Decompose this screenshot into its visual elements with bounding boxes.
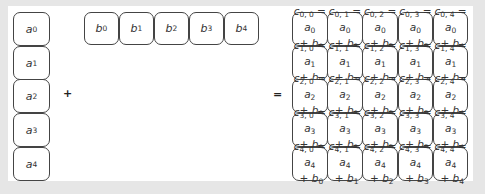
cell-b-index: 1 bbox=[354, 177, 359, 186]
cell-equals: = bbox=[384, 39, 396, 51]
cell-index: 4, 3 bbox=[405, 145, 419, 154]
cell-index: 0, 2 bbox=[370, 10, 384, 19]
cell-lhs: c1, 1 = bbox=[329, 39, 361, 55]
cell-equals: = bbox=[314, 72, 326, 84]
element-symbol: b bbox=[201, 22, 208, 35]
cell-a-index: 0 bbox=[451, 26, 456, 35]
cell-equals: = bbox=[419, 39, 431, 51]
cell-index: 3, 1 bbox=[335, 111, 349, 120]
cell-lhs: c0, 2 = bbox=[364, 5, 396, 21]
cell-index: 1, 1 bbox=[335, 44, 349, 53]
cell-rhs: a4 + b2 bbox=[363, 156, 397, 188]
element-symbol: b bbox=[166, 22, 173, 35]
cell-rhs: a4 + b1 bbox=[328, 156, 362, 188]
cell-index: 3, 0 bbox=[299, 111, 313, 120]
cell-index: 0, 0 bbox=[299, 10, 313, 19]
cell-equals: = bbox=[455, 5, 467, 17]
cell-rhs: a4 + b3 bbox=[399, 156, 433, 188]
cell-a-index: 2 bbox=[451, 93, 456, 102]
cell-equals: = bbox=[455, 72, 467, 84]
cell-b-index: 3 bbox=[424, 177, 429, 186]
element-symbol: b bbox=[96, 22, 103, 35]
cell-plus: + bbox=[437, 172, 452, 184]
element-symbol: b bbox=[131, 22, 138, 35]
cell-index: 0, 4 bbox=[440, 10, 454, 19]
cell-equals: = bbox=[349, 106, 361, 118]
cell-lhs: c1, 4 = bbox=[434, 39, 466, 55]
element-symbol: a bbox=[26, 90, 33, 103]
cell-a-index: 0 bbox=[346, 26, 351, 35]
cell-a-index: 3 bbox=[346, 127, 351, 136]
cell-equals: = bbox=[419, 140, 431, 152]
cell-equals: = bbox=[314, 5, 326, 17]
matrix-c-cell: c4, 4 =a4 + b4 bbox=[433, 147, 469, 181]
vector-a-element: a1 bbox=[13, 46, 50, 80]
cell-a-index: 2 bbox=[416, 93, 421, 102]
vector-b-element: b1 bbox=[119, 12, 154, 45]
cell-lhs: c4, 2 = bbox=[364, 140, 396, 156]
cell-b-symbol: b bbox=[347, 172, 354, 184]
cell-a-index: 4 bbox=[346, 161, 351, 170]
element-index: 2 bbox=[173, 24, 178, 33]
cell-a-index: 3 bbox=[311, 127, 316, 136]
cell-index: 3, 3 bbox=[405, 111, 419, 120]
cell-equals: = bbox=[455, 140, 467, 152]
equals-operator: = bbox=[273, 88, 282, 101]
cell-lhs: c3, 4 = bbox=[434, 106, 466, 122]
cell-plus: + bbox=[367, 172, 382, 184]
element-index: 1 bbox=[138, 24, 143, 33]
element-index: 4 bbox=[243, 24, 248, 33]
cell-b-index: 4 bbox=[459, 177, 464, 186]
cell-a-index: 4 bbox=[381, 161, 386, 170]
cell-index: 1, 3 bbox=[405, 44, 419, 53]
cell-equals: = bbox=[349, 5, 361, 17]
cell-lhs: c2, 1 = bbox=[329, 72, 361, 88]
cell-lhs: c2, 0 = bbox=[294, 72, 326, 88]
cell-a-index: 0 bbox=[311, 26, 316, 35]
vector-b-element: b3 bbox=[189, 12, 224, 45]
cell-lhs: c1, 2 = bbox=[364, 39, 396, 55]
cell-index: 1, 0 bbox=[299, 44, 313, 53]
cell-a-index: 4 bbox=[311, 161, 316, 170]
cell-b-index: 2 bbox=[389, 177, 394, 186]
cell-a-index: 1 bbox=[346, 60, 351, 69]
element-symbol: b bbox=[236, 22, 243, 35]
matrix-c-cell: c4, 0 =a4 + b0 bbox=[292, 147, 328, 181]
cell-a-index: 2 bbox=[346, 93, 351, 102]
cell-equals: = bbox=[384, 106, 396, 118]
cell-index: 2, 4 bbox=[440, 77, 454, 86]
cell-lhs: c2, 4 = bbox=[434, 72, 466, 88]
cell-index: 2, 0 bbox=[299, 77, 313, 86]
cell-a-index: 1 bbox=[381, 60, 386, 69]
element-index: 1 bbox=[32, 59, 37, 68]
cell-equals: = bbox=[384, 140, 396, 152]
cell-index: 2, 1 bbox=[335, 77, 349, 86]
cell-a-index: 0 bbox=[381, 26, 386, 35]
cell-plus: + bbox=[296, 172, 311, 184]
cell-index: 3, 2 bbox=[370, 111, 384, 120]
cell-index: 2, 2 bbox=[370, 77, 384, 86]
cell-b-index: 0 bbox=[318, 177, 323, 186]
matrix-c-cell: c4, 2 =a4 + b2 bbox=[362, 147, 398, 181]
cell-lhs: c2, 3 = bbox=[399, 72, 431, 88]
cell-index: 4, 4 bbox=[440, 145, 454, 154]
cell-index: 0, 3 bbox=[405, 10, 419, 19]
cell-a-index: 0 bbox=[416, 26, 421, 35]
element-index: 4 bbox=[32, 160, 37, 169]
cell-a-index: 2 bbox=[381, 93, 386, 102]
element-index: 3 bbox=[32, 126, 37, 135]
cell-lhs: c0, 3 = bbox=[399, 5, 431, 21]
cell-equals: = bbox=[419, 106, 431, 118]
element-index: 0 bbox=[103, 24, 108, 33]
matrix-c-cell: c4, 3 =a4 + b3 bbox=[398, 147, 434, 181]
cell-a-index: 4 bbox=[416, 161, 421, 170]
cell-lhs: c0, 0 = bbox=[294, 5, 326, 21]
element-symbol: a bbox=[26, 57, 33, 70]
cell-a-index: 2 bbox=[311, 93, 316, 102]
cell-equals: = bbox=[384, 72, 396, 84]
cell-index: 0, 1 bbox=[335, 10, 349, 19]
vector-a-element: a2 bbox=[13, 79, 50, 113]
cell-equals: = bbox=[314, 140, 326, 152]
diagram-canvas: a0a1a2a3a4 b0b1b2b3b4 + = c0, 0 =a0 + b0… bbox=[8, 6, 473, 181]
cell-equals: = bbox=[455, 106, 467, 118]
